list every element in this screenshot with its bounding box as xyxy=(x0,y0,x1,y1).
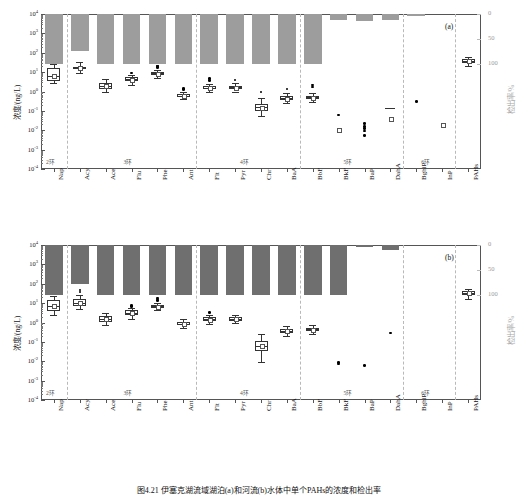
y-tick-minor xyxy=(41,327,43,328)
x-tick xyxy=(442,169,443,172)
y-tick-minor xyxy=(41,388,43,389)
y-tick-minor xyxy=(41,39,43,40)
group-label: 2环 xyxy=(46,158,55,166)
y-tick-minor xyxy=(41,255,43,256)
x-axis-label-acy: Acy xyxy=(83,168,91,180)
x-tick xyxy=(80,400,81,403)
detection-rate-bar xyxy=(149,245,167,295)
y-tick-minor xyxy=(41,270,43,271)
x-tick xyxy=(132,169,133,172)
x-axis-label-phe: Phe xyxy=(161,170,169,181)
x-axis-label-ace: Ace xyxy=(109,400,117,411)
y-tick-minor xyxy=(41,80,43,81)
detection-rate-bar xyxy=(45,14,63,64)
y-tick-minor xyxy=(41,272,43,273)
y-tick-minor xyxy=(41,115,43,116)
y-tick-minor xyxy=(41,155,43,156)
x-tick xyxy=(313,169,314,172)
y2-tick xyxy=(477,295,481,296)
y-tick-minor xyxy=(41,99,43,100)
y-tick-minor xyxy=(41,364,43,365)
y-tick-minor xyxy=(41,266,43,267)
y-tick-minor xyxy=(41,151,43,152)
detection-rate-bar xyxy=(356,14,374,21)
y-tick-minor xyxy=(41,16,43,17)
y-tick-minor xyxy=(41,44,43,45)
x-tick xyxy=(365,169,366,172)
x-axis-label-flt: Flt xyxy=(213,403,221,411)
y-tick-minor xyxy=(41,248,43,249)
detection-rate-bar xyxy=(226,14,244,64)
y-tick-minor xyxy=(41,309,43,310)
y2-tick xyxy=(477,64,481,65)
x-axis-label-flu: Flu xyxy=(135,171,143,180)
x-tick xyxy=(183,400,184,403)
figure-caption: 图4.21 伊塞克湖流域湖泊(a)和河流(b)水体中单个PAHs的浓度和检出率 xyxy=(0,484,518,495)
y-tick-minor xyxy=(41,285,43,286)
y-tick-minor xyxy=(41,251,43,252)
y-tick-minor xyxy=(41,144,43,145)
group-label: 2环 xyxy=(46,389,55,397)
detection-rate-bar xyxy=(200,245,218,295)
x-tick xyxy=(442,400,443,403)
y-tick-minor xyxy=(41,114,43,115)
x-tick xyxy=(157,400,158,403)
x-axis-label-bghip: BghiP xyxy=(420,162,428,180)
x-axis-label-bap: BaP xyxy=(368,399,376,411)
detection-rate-bar xyxy=(382,245,400,250)
y-tick-minor xyxy=(41,336,43,337)
y-tick-minor xyxy=(41,55,43,56)
y-tick-minor xyxy=(41,132,43,133)
y-tick-minor xyxy=(41,20,43,21)
x-tick xyxy=(416,169,417,172)
group-separator xyxy=(196,245,197,400)
x-axis-label-pyr: Pyr xyxy=(239,170,247,180)
y-tick-minor xyxy=(41,346,43,347)
y-tick-minor xyxy=(41,290,43,291)
y-tick-minor xyxy=(41,160,43,161)
x-tick xyxy=(339,400,340,403)
x-axis-label-ant: Ant xyxy=(187,401,195,412)
y-tick-minor xyxy=(41,384,43,385)
y-tick-major xyxy=(41,169,45,170)
y-tick-minor xyxy=(41,34,43,35)
y-tick-minor xyxy=(41,121,43,122)
y-tick-minor xyxy=(41,311,43,312)
y-tick-minor xyxy=(41,41,43,42)
y-tick-minor xyxy=(41,73,43,74)
y-tick-minor xyxy=(41,288,43,289)
y-tick-minor xyxy=(41,386,43,387)
x-tick xyxy=(235,169,236,172)
y-tick-minor xyxy=(41,74,43,75)
y-tick-minor xyxy=(41,117,43,118)
x-axis-label-daha: DahA xyxy=(394,394,402,411)
x-axis-label-bkf: BkF xyxy=(342,168,350,180)
y-tick-label: 104 xyxy=(13,240,38,248)
y-tick-minor xyxy=(41,60,43,61)
y-tick-minor xyxy=(41,355,43,356)
y-tick-minor xyxy=(41,131,43,132)
y-tick-minor xyxy=(41,385,43,386)
x-axis-label-bkf: BkF xyxy=(342,399,350,411)
y-tick-minor xyxy=(41,28,43,29)
y-tick-minor xyxy=(41,317,43,318)
y-tick-label: 101 xyxy=(13,67,38,75)
y-tick-minor xyxy=(41,323,43,324)
y-tick-minor xyxy=(41,82,43,83)
y-tick-minor xyxy=(41,78,43,79)
group-label: 3环 xyxy=(124,158,133,166)
y-tick-minor xyxy=(41,259,43,260)
x-axis-label-nap: Nap xyxy=(57,399,65,411)
y-tick-minor xyxy=(41,330,43,331)
y-tick-minor xyxy=(41,22,43,23)
x-tick xyxy=(287,169,288,172)
x-axis-label-inp: InP xyxy=(446,170,454,180)
x-axis-label-pahs: PAHs xyxy=(472,164,480,180)
y-tick-minor xyxy=(41,345,43,346)
y-tick-minor xyxy=(41,113,43,114)
y-tick-minor xyxy=(41,291,43,292)
detection-rate-bar xyxy=(97,245,115,295)
detection-rate-bar xyxy=(330,245,348,295)
x-tick xyxy=(132,400,133,403)
y-tick-minor xyxy=(41,136,43,137)
